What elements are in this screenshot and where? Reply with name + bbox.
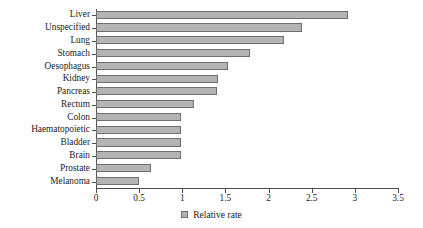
square-swatch-icon	[181, 211, 188, 218]
x-axis-tick-label: 1.5	[220, 194, 232, 203]
category-label: Brain	[69, 151, 90, 160]
bar	[96, 151, 181, 159]
bar-row: Haematopoietic	[96, 124, 398, 137]
bar	[96, 177, 139, 185]
x-axis-tick-label: 3.5	[392, 194, 404, 203]
legend-label: Relative rate	[193, 210, 242, 220]
x-axis-tick-label: 0.5	[133, 194, 145, 203]
bar-row: Unspecified	[96, 22, 398, 35]
category-label: Prostate	[60, 164, 90, 173]
bar-row: Prostate	[96, 162, 398, 175]
category-label: Lung	[70, 36, 90, 45]
bar-row: Melanoma	[96, 175, 398, 188]
x-axis-tick-label: 0	[94, 194, 99, 203]
bar	[96, 87, 217, 95]
x-axis-tick-label: 2.5	[306, 194, 318, 203]
x-axis-tick-label: 3	[353, 194, 358, 203]
category-label: Pancreas	[57, 87, 90, 96]
bar-row: Pancreas	[96, 86, 398, 99]
x-axis-line	[96, 188, 399, 189]
bar-row: Rectum	[96, 99, 398, 112]
chart-legend: Relative rate	[0, 210, 423, 220]
category-label: Unspecified	[45, 24, 90, 33]
bar-row: Lung	[96, 35, 398, 48]
bar-row: Kidney	[96, 73, 398, 86]
x-axis-tick-label: 1	[180, 194, 185, 203]
x-axis-tick-label: 2	[266, 194, 271, 203]
bar	[96, 49, 250, 57]
bar	[96, 11, 348, 19]
bar	[96, 100, 194, 108]
category-label: Stomach	[57, 49, 90, 58]
category-label: Colon	[67, 113, 90, 122]
plot-area: LiverUnspecifiedLungStomachOesophagusKid…	[96, 9, 398, 188]
category-label: Rectum	[61, 100, 90, 109]
bar	[96, 164, 151, 172]
bar	[96, 75, 218, 83]
category-label: Kidney	[63, 75, 90, 84]
bar-row: Bladder	[96, 137, 398, 150]
category-label: Oesophagus	[45, 62, 90, 71]
bar-row: Oesophagus	[96, 60, 398, 73]
bar-row: Stomach	[96, 47, 398, 60]
category-label: Bladder	[61, 139, 90, 148]
bar	[96, 113, 181, 121]
category-label: Liver	[70, 11, 90, 20]
category-label: Haematopoietic	[31, 126, 90, 135]
bar	[96, 36, 284, 44]
bar-row: Colon	[96, 111, 398, 124]
bar-row: Brain	[96, 150, 398, 163]
bar-row: Liver	[96, 9, 398, 22]
chart-figure: LiverUnspecifiedLungStomachOesophagusKid…	[0, 0, 423, 228]
bar	[96, 62, 228, 70]
bar	[96, 138, 181, 146]
bar	[96, 23, 302, 31]
category-label: Melanoma	[50, 177, 90, 186]
bar	[96, 126, 181, 134]
